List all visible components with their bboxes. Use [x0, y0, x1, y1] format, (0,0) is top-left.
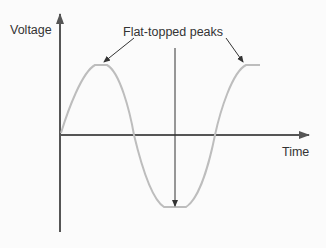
- annotation-label: Flat-topped peaks: [123, 26, 223, 39]
- annotation-arrow-left: [104, 38, 134, 62]
- y-axis-label: Voltage: [10, 24, 52, 37]
- annotation-arrow-right: [226, 38, 243, 62]
- x-axis-label: Time: [282, 146, 309, 159]
- diagram-canvas: Voltage Flat-topped peaks Time: [0, 0, 326, 248]
